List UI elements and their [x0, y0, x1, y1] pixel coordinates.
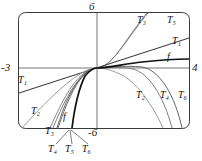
curve-label-T3-bottom: T₃	[45, 125, 54, 136]
curve-label-T5-callout: T₅	[65, 143, 74, 154]
curve-label-T4-callout: T₄	[48, 143, 57, 154]
curve-label-T3-top: T₃	[137, 14, 146, 25]
axis-label-bottom: -6	[88, 126, 97, 138]
curve-label-T5-top: T₅	[167, 14, 176, 25]
curve-label-T6-right: T₆	[178, 89, 187, 100]
callout-leader-lines	[56, 130, 88, 144]
curve-label-f-bottom: f	[63, 111, 66, 122]
curve-label-T6-callout: T₆	[82, 143, 91, 154]
axis-label-left: -3	[1, 61, 10, 73]
taylor-polynomial-figure: 6 -3 4 -6 T₃ T₅ T₁ f T₁ T₂ f T₃ T₄ T₅ T₆…	[0, 0, 202, 161]
curve-label-T4-right: T₄	[160, 89, 169, 100]
curve-label-T1-left: T₁	[18, 74, 27, 85]
curve-label-T1-right: T₁	[172, 35, 181, 46]
axis-label-top: 6	[89, 0, 95, 12]
plot-frame	[19, 13, 190, 129]
curve-label-T2-left: T₂	[31, 105, 40, 116]
curve-label-f-right: f	[167, 51, 170, 62]
axis-label-right: 4	[192, 61, 198, 73]
curve-label-T2-right: T₂	[136, 89, 145, 100]
